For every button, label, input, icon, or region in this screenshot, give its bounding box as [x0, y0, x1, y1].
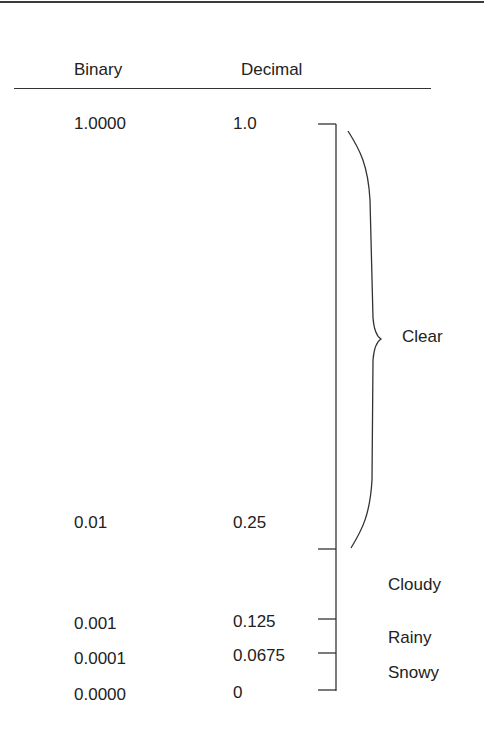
label-rainy: Rainy [388, 628, 431, 648]
label-cloudy: Cloudy [388, 575, 441, 595]
label-clear: Clear [402, 327, 443, 347]
label-snowy: Snowy [388, 663, 439, 683]
brace-icon [348, 131, 381, 548]
